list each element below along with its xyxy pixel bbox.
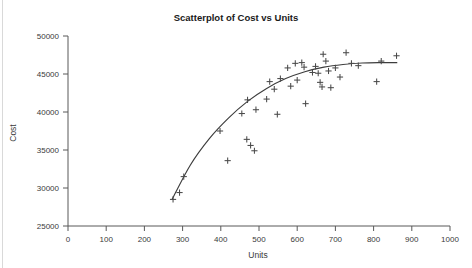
data-point-marker [251,148,257,154]
data-point-marker [181,174,187,180]
data-point-marker [285,65,291,71]
y-tick-label: 50000 [37,32,60,41]
x-axis-ticks: 01002003004005006007008009001000 [66,226,460,244]
data-point-marker [288,83,294,89]
y-tick-label: 40000 [37,108,60,117]
data-point-marker [303,101,309,107]
x-tick-label: 500 [252,235,266,244]
chart-title: Scatterplot of Cost vs Units [174,12,299,23]
data-point-marker [267,79,273,85]
data-points [170,50,400,203]
y-tick-label: 25000 [37,222,60,231]
data-point-marker [343,50,349,56]
data-point-marker [328,85,334,91]
data-point-marker [170,196,176,202]
data-point-marker [277,75,283,81]
x-tick-label: 800 [367,235,381,244]
data-point-marker [253,107,259,113]
data-point-marker [247,142,253,148]
data-point-marker [378,58,384,64]
x-tick-label: 600 [291,235,305,244]
x-tick-label: 100 [100,235,114,244]
data-point-marker [244,136,250,142]
y-tick-label: 30000 [37,184,60,193]
data-point-marker [274,111,280,117]
page-left-border [2,0,3,268]
data-point-marker [264,96,270,102]
y-axis-label: Cost [8,124,18,142]
x-tick-label: 200 [138,235,152,244]
x-axis-label: Units [248,250,267,260]
data-point-marker [323,58,329,64]
data-point-marker [325,68,331,74]
trend-line [172,63,397,200]
data-point-marker [292,60,298,66]
y-tick-label: 45000 [37,70,60,79]
data-point-marker [176,189,182,195]
y-tick-label: 35000 [37,146,60,155]
x-tick-label: 700 [329,235,343,244]
data-point-marker [225,158,231,164]
data-point-marker [294,77,300,83]
y-axis-ticks: 250003000035000400004500050000 [37,32,68,231]
x-tick-label: 400 [214,235,228,244]
data-point-marker [393,53,399,59]
data-point-marker [244,97,250,103]
scatterplot-chart: Scatterplot of Cost vs Units Cost Units … [0,0,472,268]
data-point-marker [320,51,326,57]
x-tick-label: 900 [405,235,419,244]
data-point-marker [337,74,343,80]
x-tick-label: 1000 [441,235,459,244]
data-point-marker [348,60,354,66]
data-point-marker [315,70,321,76]
x-tick-label: 0 [66,235,71,244]
data-point-marker [271,86,277,92]
x-tick-label: 300 [176,235,190,244]
plot-canvas: Scatterplot of Cost vs Units Cost Units … [0,0,472,268]
data-point-marker [374,79,380,85]
data-point-marker [239,110,245,116]
